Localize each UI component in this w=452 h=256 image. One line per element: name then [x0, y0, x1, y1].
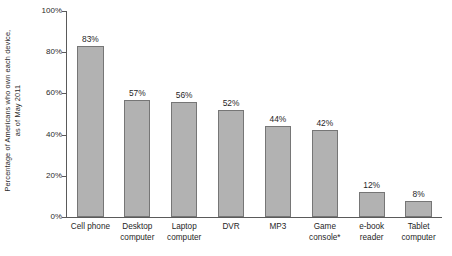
y-axis-title-line-1: Percentage of Americans who own each dev…: [3, 30, 12, 192]
x-axis-category-label-line: computer: [114, 232, 161, 243]
bar-value-label: 83%: [82, 35, 99, 44]
bar-chart: Percentage of Americans who own each dev…: [0, 0, 452, 256]
x-axis-category-label-line: Cell phone: [67, 221, 114, 232]
x-axis-category-label: Laptopcomputer: [161, 221, 208, 243]
bar[interactable]: [265, 126, 291, 217]
bar-value-label: 12%: [363, 181, 380, 190]
bar[interactable]: [124, 100, 150, 217]
bar[interactable]: [218, 110, 244, 217]
x-axis-category-label: Gameconsole*: [301, 221, 348, 243]
bar-group: 42%: [301, 11, 348, 217]
bar[interactable]: [359, 192, 385, 217]
x-axis-category-label-line: e-book: [348, 221, 395, 232]
x-axis-category-label: MP3: [255, 221, 302, 232]
y-axis-tick-mark: [62, 52, 66, 53]
y-axis-tick-labels: 0%20%40%60%80%100%: [26, 0, 62, 222]
bar[interactable]: [171, 102, 197, 217]
y-axis-title-line-2: as of May 2011: [13, 85, 22, 136]
bar[interactable]: [77, 46, 103, 217]
bar-value-label: 57%: [129, 89, 146, 98]
bar-group: 8%: [395, 11, 442, 217]
x-axis-category-label-line: computer: [161, 232, 208, 243]
bar-group: 57%: [114, 11, 161, 217]
bar-group: 83%: [67, 11, 114, 217]
x-axis-category-labels: Cell phoneDesktopcomputerLaptopcomputerD…: [67, 221, 442, 255]
bar[interactable]: [312, 130, 338, 217]
y-axis-title-text: Percentage of Americans who own each dev…: [3, 30, 22, 192]
plot-area: 83%57%56%52%44%42%12%8%: [67, 11, 442, 217]
y-axis-tick-label: 20%: [26, 172, 62, 180]
x-axis-line: [66, 217, 442, 218]
x-axis-category-label-line: Laptop: [161, 221, 208, 232]
x-axis-category-label-line: Desktop: [114, 221, 161, 232]
y-axis-tick-mark: [62, 176, 66, 177]
y-axis-tick-label: 100%: [26, 7, 62, 15]
bar-value-label: 52%: [223, 99, 240, 108]
x-axis-category-label-line: MP3: [255, 221, 302, 232]
bar-group: 44%: [255, 11, 302, 217]
x-axis-category-label-line: Game: [301, 221, 348, 232]
x-axis-category-label-line: Tablet: [395, 221, 442, 232]
x-axis-category-label-line: console*: [301, 232, 348, 243]
y-axis-title: Percentage of Americans who own each dev…: [0, 0, 26, 222]
bar-value-label: 44%: [270, 115, 287, 124]
x-axis-category-label: Cell phone: [67, 221, 114, 232]
y-axis-tick-label: 80%: [26, 48, 62, 56]
y-axis-tick-mark: [62, 135, 66, 136]
y-axis-tick-label: 40%: [26, 131, 62, 139]
bar-group: 56%: [161, 11, 208, 217]
bar-group: 12%: [348, 11, 395, 217]
x-axis-category-label-line: DVR: [208, 221, 255, 232]
x-axis-category-label: Desktopcomputer: [114, 221, 161, 243]
bar-group: 52%: [208, 11, 255, 217]
y-axis-tick-mark: [62, 93, 66, 94]
x-axis-category-label: e-bookreader: [348, 221, 395, 243]
x-axis-category-label-line: computer: [395, 232, 442, 243]
y-axis-tick-label: 60%: [26, 89, 62, 97]
bar-value-label: 8%: [413, 190, 425, 199]
bar[interactable]: [405, 201, 431, 217]
y-axis-tick-mark: [62, 11, 66, 12]
x-axis-category-label: Tabletcomputer: [395, 221, 442, 243]
x-axis-category-label-line: reader: [348, 232, 395, 243]
bar-value-label: 56%: [176, 91, 193, 100]
bar-value-label: 42%: [316, 119, 333, 128]
x-axis-category-label: DVR: [208, 221, 255, 232]
y-axis-tick-mark: [62, 217, 66, 218]
y-axis-tick-label: 0%: [26, 213, 62, 221]
